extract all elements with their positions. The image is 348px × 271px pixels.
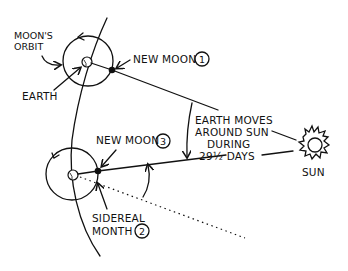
new-moon-1-label: NEW MOON	[133, 53, 196, 65]
moons-orbit-pointer-arrow	[42, 56, 60, 65]
earth-icon-2	[68, 170, 78, 180]
earth-moves-line4: 29½ DAYS	[199, 150, 255, 162]
sun-label: SUN	[302, 166, 325, 178]
moons-orbit-label-line1: MOON'S	[14, 30, 53, 41]
sun-line-2	[98, 155, 226, 171]
sun-line-1	[112, 70, 218, 110]
earth-label: EARTH	[22, 90, 58, 102]
new-moon-3-label: NEW MOON	[96, 134, 159, 146]
sun-icon	[299, 126, 329, 159]
new-moon-3-pointer-arrow	[102, 150, 116, 166]
earth-moves-line1: EARTH MOVES	[195, 114, 273, 126]
earth-icon-1	[82, 57, 92, 67]
number-3-text: 3	[160, 136, 166, 147]
sun-leader-line-1	[272, 131, 296, 140]
sidereal-label-line1: SIDEREAL	[92, 212, 145, 224]
angle-arc-arrow	[143, 165, 149, 197]
earth-moves-line2: AROUND SUN	[195, 126, 269, 138]
sun-leader-line-2	[262, 151, 293, 155]
sidereal-pointer-arrow	[98, 184, 107, 209]
number-2-text: 2	[139, 226, 145, 237]
moon-phase-diagram: MOON'S ORBIT EARTH NEW MOON 1 EARTH MOVE…	[0, 0, 348, 271]
new-moon-1-pointer-arrow	[117, 60, 130, 68]
sidereal-label-line2: MONTH	[92, 225, 133, 237]
earth-pointer-arrow	[54, 68, 80, 90]
earth-moves-line3: DURING	[207, 138, 250, 150]
number-1-text: 1	[199, 54, 205, 65]
earth-moves-arrow	[187, 103, 192, 157]
moons-orbit-label-line2: ORBIT	[14, 41, 43, 52]
